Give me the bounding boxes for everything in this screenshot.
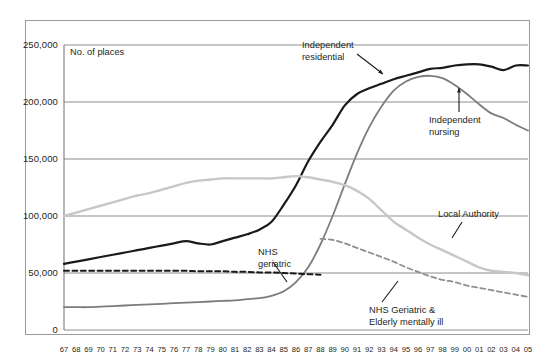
- annotation-independent-nursing: Independent nursing: [429, 115, 481, 138]
- annotation-nhs-geriatric: NHS geriatric: [258, 247, 291, 270]
- annotation-leader-lines: [273, 54, 462, 302]
- leader-line: [452, 222, 462, 238]
- y-axis-tick-label: 150,000: [6, 153, 58, 164]
- data-series-layer: [64, 64, 528, 307]
- y-axis-tick-label: 50,000: [6, 267, 58, 278]
- y-axis-tick-label: 250,000: [6, 39, 58, 50]
- annotation-local-authority: Local Authority: [438, 209, 499, 221]
- y-axis-tick-label: 0: [6, 324, 58, 335]
- leader-line: [382, 281, 398, 302]
- series-line: [320, 239, 528, 297]
- x-axis-tick-label: 05: [521, 345, 535, 354]
- leader-line: [357, 54, 383, 74]
- series-line: [64, 64, 528, 264]
- annotation-nhs-geriatric-elderly-mentally-ill: NHS Geriatric & Elderly mentally ill: [369, 305, 443, 328]
- annotation-independent-residential: Independent residential: [302, 40, 354, 63]
- y-axis-tick-label: 200,000: [6, 96, 58, 107]
- series-line: [64, 176, 528, 275]
- y-axis-tick-label: 100,000: [6, 210, 58, 221]
- chart-figure: No. of places 050,000100,000150,000200,0…: [0, 0, 547, 363]
- y-axis-title: No. of places: [70, 47, 124, 57]
